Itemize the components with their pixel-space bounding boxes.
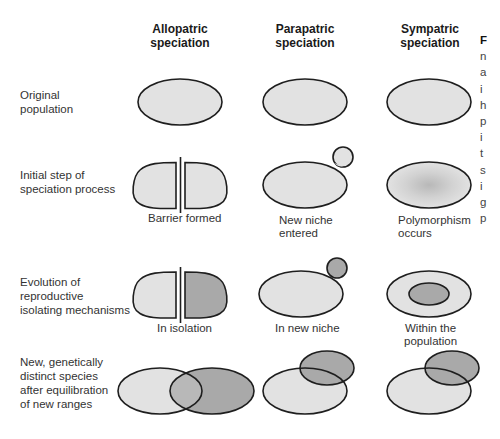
caption-line: In new niche	[275, 322, 340, 335]
caption-line: entered	[279, 227, 333, 240]
caption-barrier-formed: Barrier formed	[148, 212, 222, 225]
text-fragment: h	[480, 97, 487, 113]
parapatric-diverged-bud	[327, 258, 347, 278]
caption-line: New niche	[279, 214, 333, 227]
sympatric-diverged-subpopulation	[409, 283, 449, 305]
text-fragment: i	[480, 81, 487, 97]
parapatric-population	[259, 271, 343, 317]
caption-new-niche-entered: New niche entered	[279, 214, 333, 240]
parapatric-original-population	[263, 79, 347, 125]
caption-line: Within the	[404, 322, 457, 335]
caption-in-new-niche: In new niche	[275, 322, 340, 335]
caption-in-isolation: In isolation	[157, 322, 212, 335]
text-fragment: s	[480, 162, 487, 178]
allopatric-right-isolated	[185, 272, 227, 318]
caption-line: Barrier formed	[148, 212, 222, 225]
caption-within-the-population: Within the population	[404, 322, 457, 348]
row2-initial-step-shapes	[108, 147, 471, 213]
text-fragment: i	[480, 129, 487, 145]
cut-off-side-text: F n a i h p i t s i g p	[480, 32, 487, 226]
text-fragment: i	[480, 178, 487, 194]
text-fragment: F	[480, 32, 487, 48]
parapatric-population	[263, 162, 347, 208]
allopatric-original-population	[138, 79, 222, 125]
row3-isolation-shapes	[133, 258, 471, 323]
allopatric-right-half	[185, 163, 227, 209]
row1-original-population-shapes	[138, 79, 471, 125]
caption-line: In isolation	[157, 322, 212, 335]
sympatric-polymorphic-population	[387, 162, 471, 208]
caption-polymorphism-occurs: Polymorphism occurs	[398, 214, 471, 240]
text-fragment: p	[480, 113, 487, 129]
allopatric-left-isolated	[133, 272, 176, 318]
row4-new-species-shapes	[118, 351, 479, 414]
text-fragment: t	[480, 145, 487, 161]
text-fragment: p	[480, 210, 487, 226]
caption-line: population	[404, 335, 457, 348]
sympatric-original-population	[387, 79, 471, 125]
text-fragment: g	[480, 194, 487, 210]
caption-line: occurs	[398, 227, 471, 240]
caption-line: Polymorphism	[398, 214, 471, 227]
text-fragment: n	[480, 48, 487, 64]
text-fragment: a	[480, 64, 487, 80]
